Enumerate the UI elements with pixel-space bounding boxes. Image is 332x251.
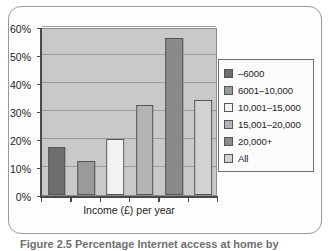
plot-area [41,28,217,196]
bar [77,161,95,195]
bar-slot [42,29,71,195]
legend-swatch [224,154,233,163]
bar [48,147,66,195]
legend-swatch [224,103,233,112]
x-axis-tick-mark [129,197,130,202]
legend-swatch [224,86,233,95]
x-axis-tick-mark [70,197,71,202]
legend-item: 6001–10,000 [224,82,313,99]
legend-label: 6001–10,000 [238,85,293,96]
legend-label: 20,000+ [238,136,272,147]
y-axis-line [40,28,42,197]
legend-label: –6000 [238,68,264,79]
legend-label: All [238,153,248,164]
y-axis-tick-label: 60% [10,23,31,35]
figure-caption: Figure 2.5 Percentage Internet access at… [8,238,322,251]
legend-item: 15,001–20,000 [224,116,313,133]
legend-label: 15,001–20,000 [238,119,301,130]
bar-slot [130,29,159,195]
bar-series [42,29,216,195]
bar [165,38,183,195]
bar-slot [159,29,188,195]
legend-swatch [224,120,233,129]
chart-legend: –60006001–10,00010,001–15,00015,001–20,0… [218,59,314,172]
gridline [42,26,216,27]
x-axis-tick-mark [188,197,189,202]
y-axis-tick-label: 10% [10,163,31,175]
y-axis-ticks: 0%10%20%30%40%50%60% [0,28,37,197]
y-axis-tick-label: 20% [10,135,31,147]
caption-band: Figure 2.5 Percentage Internet access at… [8,238,322,251]
figure-container: 0%10%20%30%40%50%60% Income (£) per year… [0,0,332,251]
bar [107,139,125,195]
x-axis-ticks [41,197,217,202]
y-axis-tick-label: 0% [16,191,31,203]
x-axis-tick-mark [100,197,101,202]
legend-swatch [224,137,233,146]
legend-item: 20,000+ [224,133,313,150]
y-axis-tick-label: 30% [10,107,31,119]
y-axis-tick-label: 40% [10,79,31,91]
x-axis-tick-mark [158,197,159,202]
legend-swatch [224,69,233,78]
x-axis-label: Income (£) per year [41,204,217,216]
x-axis-tick-mark [217,197,218,202]
legend-item: All [224,150,313,167]
legend-item: 10,001–15,000 [224,99,313,116]
x-axis-tick-mark [41,197,42,202]
bar-slot [189,29,218,195]
bar [195,100,213,195]
legend-item: –6000 [224,65,313,82]
legend-label: 10,001–15,000 [238,102,301,113]
bar-slot [71,29,100,195]
y-axis-tick-label: 50% [10,51,31,63]
bar-slot [101,29,130,195]
bar [136,105,154,195]
